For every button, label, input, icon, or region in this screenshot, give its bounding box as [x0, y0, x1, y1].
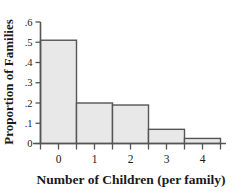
- histogram-figure: 0.1.2.3.4.5.6 01234 Number of Children (…: [0, 0, 243, 191]
- y-tick-label: 0: [27, 138, 32, 149]
- y-tick-label: .5: [25, 37, 33, 48]
- x-tick-label: 0: [56, 153, 62, 165]
- x-tick-label: 2: [128, 153, 134, 165]
- histogram-bar: [149, 129, 185, 143]
- x-axis-title: Number of Children (per family): [37, 172, 226, 187]
- x-tick-label: 1: [92, 153, 98, 165]
- y-tick-label: .1: [25, 118, 33, 129]
- y-axis-title: Proportion of Families: [1, 19, 16, 144]
- histogram-bar: [41, 40, 77, 143]
- y-tick-label: .6: [25, 17, 33, 28]
- y-tick-label: .2: [25, 98, 33, 109]
- histogram-bar: [113, 105, 149, 143]
- histogram-bar: [77, 103, 113, 144]
- x-tick-label: 3: [164, 153, 170, 165]
- y-tick-label: .4: [25, 57, 34, 68]
- y-tick-label: .3: [25, 77, 33, 88]
- x-tick-label: 4: [200, 153, 206, 165]
- chart-canvas: 0.1.2.3.4.5.6 01234 Number of Children (…: [0, 0, 243, 191]
- chart-background: [0, 0, 243, 191]
